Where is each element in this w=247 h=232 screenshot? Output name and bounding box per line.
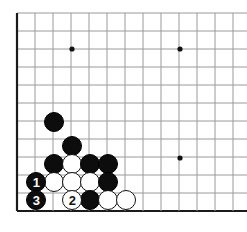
stone-white-2[interactable]: 2 — [62, 190, 82, 210]
star-point — [177, 155, 182, 160]
stone-white[interactable] — [62, 154, 82, 174]
stone-black-3[interactable]: 3 — [26, 190, 46, 210]
stone-black[interactable] — [44, 112, 64, 132]
stone-white[interactable] — [98, 190, 118, 210]
stone-move-number: 1 — [33, 175, 40, 188]
star-point — [177, 46, 182, 51]
stone-black-1[interactable]: 1 — [26, 172, 46, 192]
stone-white[interactable] — [44, 172, 64, 192]
stone-black[interactable] — [44, 154, 64, 174]
stone-white[interactable] — [62, 172, 82, 192]
stone-black[interactable] — [80, 154, 100, 174]
stone-black[interactable] — [62, 136, 82, 156]
stone-black[interactable] — [80, 190, 100, 210]
stone-white[interactable] — [80, 172, 100, 192]
stone-move-number: 2 — [69, 193, 76, 206]
stone-white[interactable] — [116, 190, 136, 210]
go-board-diagram: 132 — [0, 0, 247, 232]
star-point — [69, 46, 74, 51]
stone-black[interactable] — [98, 172, 118, 192]
stone-move-number: 3 — [33, 193, 40, 206]
stone-black[interactable] — [98, 154, 118, 174]
